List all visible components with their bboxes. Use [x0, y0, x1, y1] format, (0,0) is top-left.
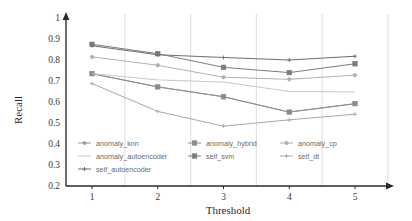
data-series-group — [90, 42, 357, 128]
chart-container: 0.20.30.40.50.60.70.80.91 12345 anomaly_… — [0, 0, 412, 221]
series-line-anomaly_hybrid — [92, 74, 355, 112]
series-self_dt — [90, 82, 357, 129]
y-tick-label-0.2: 0.2 — [48, 181, 60, 191]
chart-legend: anomaly_knnanomaly_hybridanomaly_cpanoma… — [78, 139, 337, 174]
data-point-anomaly_cp-4 — [288, 78, 291, 81]
series-line-anomaly_knn — [92, 74, 355, 112]
data-point-self_svm-5 — [353, 62, 357, 66]
y-axis-tick-labels: 0.20.30.40.50.60.70.80.91 — [48, 13, 60, 191]
data-point-anomaly_hybrid-2 — [156, 85, 160, 89]
data-point-self_autoencoder-4 — [287, 58, 291, 62]
x-tick-label-3: 3 — [221, 192, 226, 202]
legend-label-self_dt: self_dt — [298, 152, 319, 161]
y-tick-label-1: 1 — [55, 13, 60, 23]
axes-group — [63, 12, 394, 189]
y-axis-arrowhead — [63, 12, 70, 20]
legend-item-anomaly_cp[interactable]: anomaly_cp — [280, 139, 337, 148]
legend-label-anomaly_autoencoder: anomaly_autoencoder — [96, 152, 168, 161]
x-tick-label-4: 4 — [287, 192, 292, 202]
legend-label-self_svm: self_svm — [206, 152, 234, 161]
data-point-anomaly_hybrid-3 — [221, 95, 225, 99]
data-point-self_dt-1 — [90, 82, 94, 86]
legend-item-anomaly_knn[interactable]: anomaly_knn — [78, 139, 139, 148]
data-point-self_svm-3 — [221, 65, 225, 69]
data-point-self_dt-2 — [156, 109, 160, 113]
series-line-self_dt — [92, 84, 355, 127]
legend-label-self_autoencoder: self_autoencoder — [96, 165, 152, 174]
x-axis-title: Threshold — [206, 204, 251, 216]
data-point-self_svm-4 — [287, 70, 291, 74]
legend-item-self_dt[interactable]: self_dt — [280, 152, 319, 161]
y-tick-label-0.9: 0.9 — [48, 34, 60, 44]
data-point-self_autoencoder-3 — [222, 55, 226, 59]
y-tick-label-0.8: 0.8 — [48, 55, 60, 65]
x-tick-label-1: 1 — [90, 192, 95, 202]
data-point-self_dt-3 — [222, 124, 226, 128]
y-tick-label-0.3: 0.3 — [48, 160, 60, 170]
data-point-anomaly_hybrid-4 — [287, 110, 291, 114]
legend-label-anomaly_hybrid: anomaly_hybrid — [206, 139, 257, 148]
data-point-self_dt-5 — [353, 112, 357, 116]
x-tick-label-2: 2 — [155, 192, 160, 202]
y-tick-label-0.6: 0.6 — [48, 97, 60, 107]
data-point-self_autoencoder-5 — [353, 54, 357, 58]
data-point-self_dt-4 — [287, 118, 291, 122]
recall-vs-threshold-line-chart: 0.20.30.40.50.60.70.80.91 12345 anomaly_… — [0, 0, 412, 221]
y-tick-label-0.4: 0.4 — [48, 139, 60, 149]
legend-item-anomaly_autoencoder[interactable]: anomaly_autoencoder — [78, 152, 168, 161]
x-axis-tick-labels: 12345 — [90, 192, 358, 202]
x-axis-arrowhead — [386, 183, 394, 190]
x-tick-label-5: 5 — [353, 192, 358, 202]
series-self_autoencoder — [90, 44, 357, 62]
y-tick-label-0.7: 0.7 — [48, 76, 60, 86]
legend-label-anomaly_knn: anomaly_knn — [96, 139, 139, 148]
data-point-anomaly_cp-2 — [156, 64, 159, 67]
data-point-anomaly_cp-3 — [222, 76, 225, 79]
legend-label-anomaly_cp: anomaly_cp — [298, 139, 337, 148]
legend-item-self_svm[interactable]: self_svm — [188, 152, 234, 161]
data-point-anomaly_hybrid-5 — [353, 101, 357, 105]
data-point-anomaly_cp-5 — [353, 73, 356, 76]
legend-item-self_autoencoder[interactable]: self_autoencoder — [78, 165, 152, 174]
legend-item-anomaly_hybrid[interactable]: anomaly_hybrid — [188, 139, 257, 148]
data-point-anomaly_cp-1 — [90, 55, 93, 58]
y-axis-title: Recall — [12, 96, 24, 124]
y-tick-label-0.5: 0.5 — [48, 118, 60, 128]
